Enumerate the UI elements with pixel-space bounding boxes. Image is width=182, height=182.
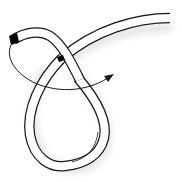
arrowhead-icon bbox=[104, 74, 114, 82]
knot-diagram bbox=[0, 0, 182, 182]
knot-illustration bbox=[0, 0, 182, 182]
